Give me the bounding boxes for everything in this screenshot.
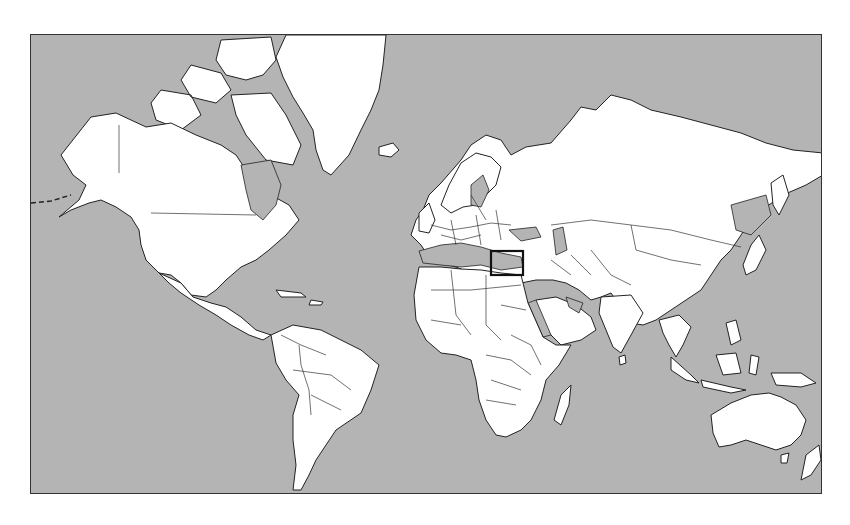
madagascar [554, 385, 571, 425]
africa [414, 267, 571, 437]
new-zealand [801, 445, 821, 480]
world-map-svg [31, 35, 822, 494]
india [599, 295, 643, 353]
japan [743, 235, 766, 275]
philippines [726, 320, 741, 345]
aleutian-islands [31, 195, 71, 203]
tasmania [781, 453, 789, 463]
indonesia [671, 353, 816, 393]
south-america [271, 325, 379, 490]
iceland [379, 143, 399, 157]
caribbean [276, 290, 323, 305]
southeast-asia [659, 315, 691, 357]
sri-lanka [619, 355, 626, 365]
world-map [30, 34, 822, 494]
australia [711, 393, 806, 450]
